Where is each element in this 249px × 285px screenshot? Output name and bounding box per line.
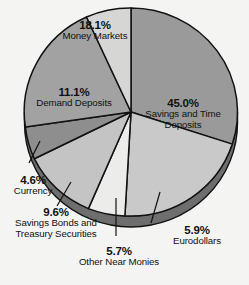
pie-label-savings-bonds-name-2: Treasury Securities (0, 229, 112, 239)
pie-chart: 18.1% Money Markets 11.1% Demand Deposit… (0, 0, 249, 285)
pie-label-eurodollars: 5.9% Eurodollars (157, 224, 237, 247)
pie-label-demand-deposits-name: Demand Deposits (20, 98, 128, 108)
pie-label-currency: 4.6% Currency (0, 174, 66, 197)
pie-label-eurodollars-name: Eurodollars (157, 236, 237, 246)
pie-label-demand-deposits: 11.1% Demand Deposits (20, 86, 128, 109)
pie-label-savings-and-time-deposits: 45.0% Savings and Time Deposits (131, 97, 235, 130)
pie-label-money-markets: 18.1% Money Markets (43, 19, 147, 42)
pie-label-savings-bonds-and-treasury-securities: 9.6% Savings Bonds and Treasury Securiti… (0, 206, 112, 239)
pie-label-money-markets-name: Money Markets (43, 31, 147, 41)
pie-label-other-near-monies-name: Other Near Monies (67, 257, 171, 267)
pie-label-currency-name: Currency (0, 186, 66, 196)
pie-label-other-near-monies: 5.7% Other Near Monies (67, 245, 171, 268)
pie-label-savings-and-time-deposits-name-2: Deposits (131, 120, 235, 130)
